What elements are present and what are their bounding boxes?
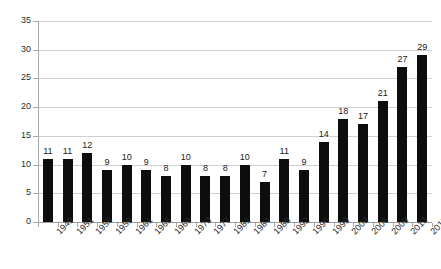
bar-group: 27 xyxy=(393,21,413,222)
bar-value-label: 11 xyxy=(63,147,72,156)
bar-value-label: 9 xyxy=(144,158,149,167)
bar-value-label: 11 xyxy=(280,147,289,156)
x-tick-label: 1984 xyxy=(252,230,258,236)
bar[interactable] xyxy=(279,159,289,222)
x-tick-label: 1981 xyxy=(232,230,238,236)
bar-group: 17 xyxy=(353,21,373,222)
y-tick-label: 15 xyxy=(5,131,31,140)
bar[interactable] xyxy=(141,170,151,222)
y-tick-mark-25 xyxy=(33,78,38,79)
bar-group: 9 xyxy=(97,21,117,222)
x-tick-label: 1999 xyxy=(331,230,337,236)
y-axis-tick-labels: 05101520253035 xyxy=(0,0,31,269)
bar-group: 10 xyxy=(235,21,255,222)
y-tick-label: 20 xyxy=(5,102,31,111)
bar-group: 11 xyxy=(58,21,78,222)
x-tick-label: 1949 xyxy=(55,230,61,236)
y-tick-mark-35 xyxy=(33,21,38,22)
bar-group: 10 xyxy=(117,21,137,222)
bar-value-label: 21 xyxy=(378,89,388,98)
bar[interactable] xyxy=(63,159,73,222)
x-tick-label: 1988 xyxy=(272,230,278,236)
bar-chart: 111112910981088107119141817212729 051015… xyxy=(0,0,441,269)
bar-value-label: 12 xyxy=(82,141,92,150)
x-tick-mark xyxy=(38,223,39,227)
y-tick-label: 0 xyxy=(5,217,31,226)
x-tick-label: 2003 xyxy=(350,230,356,236)
y-tick-label: 25 xyxy=(5,73,31,82)
bar-value-label: 14 xyxy=(319,130,329,139)
x-tick-label: 1951 xyxy=(75,230,81,236)
bar[interactable] xyxy=(82,153,92,222)
bar[interactable] xyxy=(122,165,132,222)
x-tick-label: 2015 xyxy=(429,230,435,236)
bar-value-label: 8 xyxy=(203,164,208,173)
bar-group: 11 xyxy=(38,21,58,222)
x-tick-label: 2009 xyxy=(390,230,396,236)
bar-value-label: 10 xyxy=(240,153,250,162)
x-tick-label: 1973 xyxy=(193,230,199,236)
x-tick-label: 1992 xyxy=(291,230,297,236)
y-tick-label: 35 xyxy=(5,16,31,25)
bar-group: 8 xyxy=(215,21,235,222)
bar[interactable] xyxy=(338,119,348,222)
bar-value-label: 8 xyxy=(164,164,169,173)
bar-group: 9 xyxy=(137,21,157,222)
bar-value-label: 27 xyxy=(397,55,407,64)
y-tick-label: 5 xyxy=(5,188,31,197)
bar-value-label: 10 xyxy=(181,153,191,162)
bar-group: 9 xyxy=(294,21,314,222)
bar-group: 8 xyxy=(196,21,216,222)
bar-value-label: 9 xyxy=(301,158,306,167)
bar-value-label: 10 xyxy=(122,153,132,162)
x-tick-label: 1996 xyxy=(311,230,317,236)
bar-value-label: 29 xyxy=(417,43,427,52)
bar-group: 18 xyxy=(334,21,354,222)
bar[interactable] xyxy=(240,165,250,222)
x-tick-label: 1959 xyxy=(114,230,120,236)
bar-value-label: 8 xyxy=(223,164,228,173)
x-tick-label: 2013 xyxy=(409,230,415,236)
bar-group: 12 xyxy=(77,21,97,222)
y-tick-label: 10 xyxy=(5,160,31,169)
y-tick-mark-10 xyxy=(33,165,38,166)
bar[interactable] xyxy=(181,165,191,222)
bar-value-label: 9 xyxy=(104,158,109,167)
bar[interactable] xyxy=(417,55,427,222)
y-tick-mark-30 xyxy=(33,50,38,51)
x-tick-label: 2006 xyxy=(370,230,376,236)
bar-value-label: 11 xyxy=(43,147,52,156)
bar[interactable] xyxy=(378,101,388,222)
bar-group: 8 xyxy=(156,21,176,222)
bar-group: 10 xyxy=(176,21,196,222)
y-tick-label: 30 xyxy=(5,45,31,54)
plot-area: 111112910981088107119141817212729 xyxy=(38,21,432,222)
x-tick-label: 1961 xyxy=(134,230,140,236)
bar[interactable] xyxy=(319,142,329,222)
bar-group: 14 xyxy=(314,21,334,222)
x-tick-label: 1955 xyxy=(94,230,100,236)
bar[interactable] xyxy=(397,67,407,222)
y-tick-mark-20 xyxy=(33,107,38,108)
bar-group: 21 xyxy=(373,21,393,222)
x-tick-label: 1977 xyxy=(212,230,218,236)
bar-group: 7 xyxy=(255,21,275,222)
bar[interactable] xyxy=(358,124,368,222)
bar-value-label: 18 xyxy=(338,107,348,116)
bar-value-label: 17 xyxy=(358,112,368,121)
y-tick-mark-5 xyxy=(33,193,38,194)
bar-value-label: 7 xyxy=(262,170,267,179)
x-tick-label: 1965 xyxy=(153,230,159,236)
y-axis-line xyxy=(38,21,39,223)
y-tick-mark-15 xyxy=(33,136,38,137)
bar-group: 11 xyxy=(274,21,294,222)
x-tick-label: 1969 xyxy=(173,230,179,236)
bar-group: 29 xyxy=(412,21,432,222)
bar[interactable] xyxy=(43,159,53,222)
